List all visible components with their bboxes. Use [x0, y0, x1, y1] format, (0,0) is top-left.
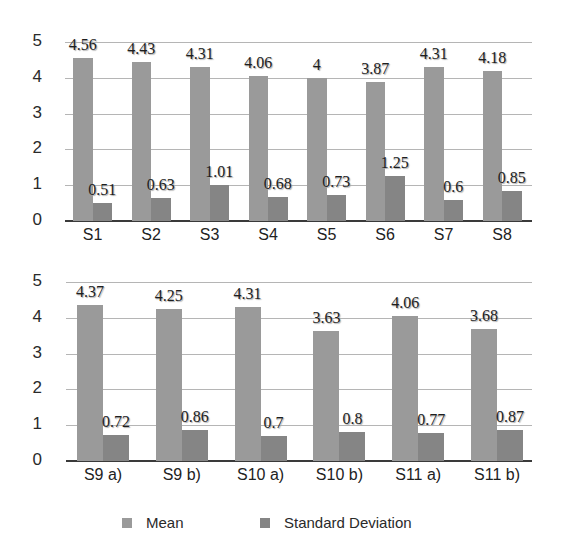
gridline — [66, 389, 532, 390]
bar-mean — [190, 67, 210, 221]
bar-standard-deviation — [268, 197, 288, 221]
bar-standard-deviation — [93, 203, 113, 221]
y-tick-label: 3 — [22, 343, 42, 363]
x-tick-label: S11 b) — [462, 466, 532, 484]
y-tick-label: 5 — [22, 31, 42, 51]
value-label-standard-deviation: 0.8 — [327, 410, 377, 428]
bar-mean — [471, 329, 497, 461]
x-tick-label: S10 b) — [304, 466, 374, 484]
bar-mean — [366, 82, 386, 221]
value-label-mean: 4.37 — [65, 283, 115, 301]
value-label-standard-deviation: 0.86 — [170, 408, 220, 426]
y-tick-label: 4 — [22, 67, 42, 87]
y-tick-label: 3 — [22, 103, 42, 123]
bar-mean — [77, 305, 103, 461]
value-label-standard-deviation: 0.6 — [428, 178, 478, 196]
value-label-mean: 4.56 — [58, 36, 108, 54]
legend-item-standard-deviation: Standard Deviation — [260, 514, 412, 531]
y-tick-label: 2 — [22, 138, 42, 158]
bar-standard-deviation — [103, 435, 129, 461]
bar-standard-deviation — [385, 176, 405, 221]
bar-mean — [392, 316, 418, 461]
value-label-mean: 4.31 — [223, 285, 273, 303]
y-tick-label: 1 — [22, 414, 42, 434]
x-tick-label: S9 b) — [147, 466, 217, 484]
legend-swatch-standard-deviation — [260, 518, 270, 528]
bar-mean — [156, 309, 182, 461]
bar-mean — [249, 76, 269, 221]
value-label-standard-deviation: 0.7 — [249, 414, 299, 432]
bar-standard-deviation — [418, 433, 444, 461]
bar-standard-deviation — [182, 430, 208, 461]
gridline — [66, 354, 532, 355]
bar-mean — [235, 307, 261, 461]
bar-mean — [313, 331, 339, 461]
x-tick-label: S10 a) — [226, 466, 296, 484]
bar-mean — [132, 62, 152, 221]
value-label-standard-deviation: 0.85 — [487, 169, 537, 187]
value-label-mean: 4.06 — [380, 294, 430, 312]
bar-standard-deviation — [261, 436, 287, 461]
bar-standard-deviation — [151, 198, 171, 221]
y-tick-label: 5 — [22, 271, 42, 291]
gridline — [66, 282, 532, 283]
value-label-mean: 4.06 — [233, 54, 283, 72]
bar-mean — [307, 78, 327, 221]
y-tick-label: 0 — [22, 210, 42, 230]
bar-standard-deviation — [210, 185, 230, 221]
value-label-mean: 4.31 — [409, 45, 459, 63]
value-label-mean: 4.43 — [116, 40, 166, 58]
y-tick-label: 2 — [22, 378, 42, 398]
value-label-standard-deviation: 0.77 — [406, 411, 456, 429]
x-tick-label: S8 — [467, 226, 537, 244]
value-label-mean: 3.68 — [459, 307, 509, 325]
value-label-mean: 4.25 — [144, 287, 194, 305]
value-label-standard-deviation: 0.87 — [485, 408, 535, 426]
value-label-standard-deviation: 0.72 — [91, 413, 141, 431]
legend-label-standard-deviation: Standard Deviation — [284, 514, 412, 531]
value-label-standard-deviation: 0.68 — [253, 175, 303, 193]
legend-label-mean: Mean — [146, 514, 184, 531]
value-label-standard-deviation: 1.25 — [370, 154, 420, 172]
bar-standard-deviation — [444, 200, 464, 221]
value-label-standard-deviation: 1.01 — [194, 163, 244, 181]
value-label-mean: 4.18 — [467, 49, 517, 67]
value-label-mean: 3.87 — [350, 60, 400, 78]
value-label-standard-deviation: 0.63 — [136, 176, 186, 194]
value-label-mean: 3.63 — [301, 309, 351, 327]
bar-standard-deviation — [327, 195, 347, 221]
bar-mean — [424, 67, 444, 221]
value-label-mean: 4.31 — [175, 45, 225, 63]
x-tick-label: S9 a) — [68, 466, 138, 484]
bar-standard-deviation — [502, 191, 522, 221]
value-label-standard-deviation: 0.73 — [311, 173, 361, 191]
y-tick-label: 1 — [22, 174, 42, 194]
legend-swatch-mean — [122, 518, 132, 528]
bar-standard-deviation — [339, 432, 365, 461]
y-tick-label: 0 — [22, 450, 42, 470]
legend-item-mean: Mean — [122, 514, 184, 531]
bar-standard-deviation — [497, 430, 523, 461]
value-label-standard-deviation: 0.51 — [77, 181, 127, 199]
x-axis — [66, 460, 532, 462]
x-tick-label: S11 a) — [383, 466, 453, 484]
y-tick-label: 4 — [22, 307, 42, 327]
value-label-mean: 4 — [292, 56, 342, 74]
bar-mean — [483, 71, 503, 221]
